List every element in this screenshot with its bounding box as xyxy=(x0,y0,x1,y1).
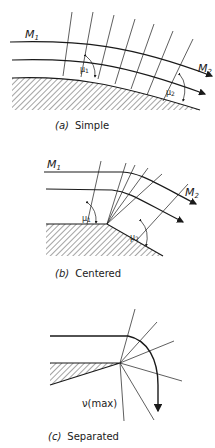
label-mu2: μ2 xyxy=(166,88,175,97)
label-m1: M1 xyxy=(47,158,61,172)
streamline-1 xyxy=(44,172,196,204)
streamline-1 xyxy=(10,42,212,76)
angle-arc-mu2 xyxy=(141,221,147,246)
label-nu-max: ν(max) xyxy=(82,398,117,409)
panel-b-centered: M1 M2 μ1 μ2 (b)Centered xyxy=(44,158,200,279)
label-mu2: μ2 xyxy=(130,233,139,242)
caption-c: (c)Separated xyxy=(48,431,119,442)
prandtl-meyer-expansion-diagram: M1 M2 μ1 μ2 (a)Simple M1 M2 μ1 μ2 (b)Cen… xyxy=(0,0,215,448)
label-m1: M1 xyxy=(25,28,39,42)
angle-arc-mu2 xyxy=(180,75,185,101)
caption-b: (b)Centered xyxy=(55,268,121,279)
label-m2: M2 xyxy=(198,62,213,76)
expansion-fan xyxy=(120,309,182,421)
panel-a-simple: M1 M2 μ1 μ2 (a)Simple xyxy=(10,12,213,131)
label-m2: M2 xyxy=(185,186,200,200)
panel-c-separated: ν(max) (c)Separated xyxy=(48,309,182,442)
label-mu1: μ1 xyxy=(80,65,89,74)
caption-a: (a)Simple xyxy=(55,120,109,131)
label-mu1: μ1 xyxy=(82,214,91,223)
